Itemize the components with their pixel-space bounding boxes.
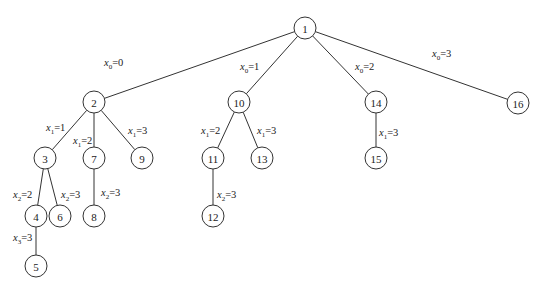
node-label: 14 — [371, 97, 383, 109]
node-label: 8 — [91, 211, 97, 223]
edge-label-7-8: x2=3 — [100, 187, 120, 201]
node-label: 13 — [257, 153, 269, 165]
node-4: 4 — [25, 205, 47, 227]
node-label: 12 — [208, 211, 219, 223]
edge-label-4-5: x3=3 — [12, 232, 32, 246]
edge-3-6 — [48, 169, 57, 206]
edge-1-2 — [104, 32, 294, 99]
node-1: 1 — [294, 17, 316, 39]
node-label: 9 — [139, 153, 145, 165]
node-label: 11 — [208, 153, 219, 165]
node-15: 15 — [365, 147, 387, 169]
node-label: 15 — [371, 153, 383, 165]
edge-label-1-14: x0=2 — [354, 61, 374, 75]
node-label: 1 — [302, 23, 308, 35]
edge-label-2-9: x1=3 — [127, 125, 147, 139]
node-label: 16 — [513, 98, 525, 110]
edge-label-2-3: x1=1 — [45, 122, 65, 136]
node-label: 6 — [57, 211, 63, 223]
edge-label-10-11: x1=2 — [200, 125, 220, 139]
edge-labels: x0=0x0=1x0=2x0=3x1=1x1=2x1=3x1=2x1=3x1=3… — [12, 48, 451, 246]
edge-label-11-12: x2=3 — [216, 189, 236, 203]
edge-label-3-4: x2=2 — [12, 189, 32, 203]
node-13: 13 — [251, 147, 273, 169]
edge-label-1-16: x0=3 — [431, 48, 451, 62]
node-label: 5 — [33, 261, 39, 273]
node-14: 14 — [365, 91, 387, 113]
node-8: 8 — [83, 205, 105, 227]
node-3: 3 — [34, 147, 56, 169]
edge-label-10-13: x1=3 — [256, 125, 276, 139]
node-2: 2 — [83, 91, 105, 113]
node-label: 10 — [234, 97, 246, 109]
edge-1-14 — [313, 36, 369, 94]
edge-label-1-10: x0=1 — [239, 61, 259, 75]
node-9: 9 — [131, 147, 153, 169]
node-label: 4 — [33, 211, 39, 223]
edge-label-14-15: x1=3 — [378, 127, 398, 141]
node-5: 5 — [25, 255, 47, 277]
node-6: 6 — [49, 205, 71, 227]
node-label: 7 — [91, 153, 97, 165]
edge-3-4 — [38, 169, 44, 205]
node-7: 7 — [83, 147, 105, 169]
edge-label-2-7: x1=2 — [72, 135, 92, 149]
search-tree-diagram: x0=0x0=1x0=2x0=3x1=1x1=2x1=3x1=2x1=3x1=3… — [0, 0, 542, 288]
edge-label-3-6: x2=3 — [60, 189, 80, 203]
node-16: 16 — [507, 92, 529, 114]
edge-label-1-2: x0=0 — [103, 57, 123, 71]
node-12: 12 — [202, 205, 224, 227]
node-11: 11 — [202, 147, 224, 169]
node-label: 3 — [42, 153, 48, 165]
node-10: 10 — [228, 91, 250, 113]
tree-nodes: 12101416379111315468125 — [25, 17, 529, 277]
edge-10-13 — [243, 112, 258, 148]
edge-1-16 — [315, 32, 507, 100]
node-label: 2 — [91, 97, 97, 109]
